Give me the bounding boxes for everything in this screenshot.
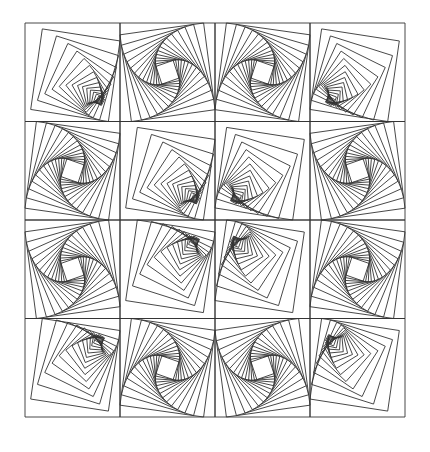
line-art-pattern xyxy=(0,0,430,452)
